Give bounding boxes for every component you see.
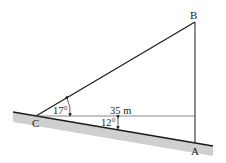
point-label-c: C xyxy=(32,117,39,129)
distance-label: 35 m xyxy=(110,105,131,116)
angle-17-label: 17° xyxy=(53,105,68,116)
point-label-a: A xyxy=(191,145,199,157)
line-cb xyxy=(36,22,195,116)
angle-12-label: 12° xyxy=(101,117,116,128)
point-label-b: B xyxy=(190,9,197,21)
triangle-diagram: B C A 17° 35 m 12° xyxy=(0,0,226,163)
